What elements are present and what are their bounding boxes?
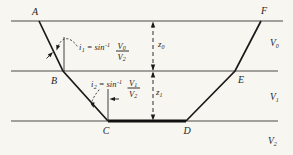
angle-equation-i1: i1= sin-1 V0 V2 [79,41,129,63]
arrow-up-icon [151,22,155,28]
depth-label-z1: z1 [155,87,163,98]
arrow-up-icon [151,72,155,78]
arrow-down-icon [151,64,155,70]
fraction-numerator: V0 [118,41,126,52]
fraction-numerator: V1 [129,78,137,89]
depth-label-z0: z0 [157,39,165,50]
velocity-label-v0: V0 [270,38,279,49]
point-label-c: C [103,125,110,136]
point-label-f: F [260,5,268,16]
fraction-denominator: V2 [129,89,137,100]
numerator-subscript: 0 [123,45,126,51]
depth-subscript: 1 [160,92,163,98]
arrow-left-icon [110,97,116,101]
diagram-canvas: A F B E C D V0 V1 V2 z0 z1 i1= sin-1 V0 … [0,0,293,155]
velocity-label-v1: V1 [270,92,279,103]
depth-subscript: 0 [162,44,165,50]
velocity-subscript: 2 [274,141,277,147]
inverse-exponent: -1 [117,79,122,85]
angle-variable-subscript: 2 [94,84,97,90]
point-label-d: D [182,125,191,136]
angle-variable-subscript: 1 [82,47,85,53]
velocity-subscript: 1 [276,97,279,103]
angle1-leader-curve [58,39,78,48]
denominator-subscript: 2 [123,56,126,62]
arrow-down-icon [151,114,155,120]
denominator-subscript: 2 [134,93,137,99]
equation-text: i1= sin-1 [79,42,110,53]
velocity-subscript: 0 [276,43,279,49]
point-label-e: E [237,74,244,85]
point-label-a: A [31,6,39,17]
point-label-b: B [51,75,57,86]
refraction-diagram: A F B E C D V0 V1 V2 z0 z1 i1= sin-1 V0 … [0,0,293,155]
equation-operator: = sin [87,42,105,52]
fraction-denominator: V2 [118,52,126,63]
numerator-subscript: 1 [134,82,137,88]
equation-operator: = sin [99,79,117,89]
equation-text: i2= sin-1 [91,79,122,90]
arrow-icon [55,45,61,51]
velocity-label-v2: V2 [268,136,277,147]
inverse-exponent: -1 [105,42,110,48]
angle-equation-i2: i2= sin-1 V1 V2 [91,78,140,100]
